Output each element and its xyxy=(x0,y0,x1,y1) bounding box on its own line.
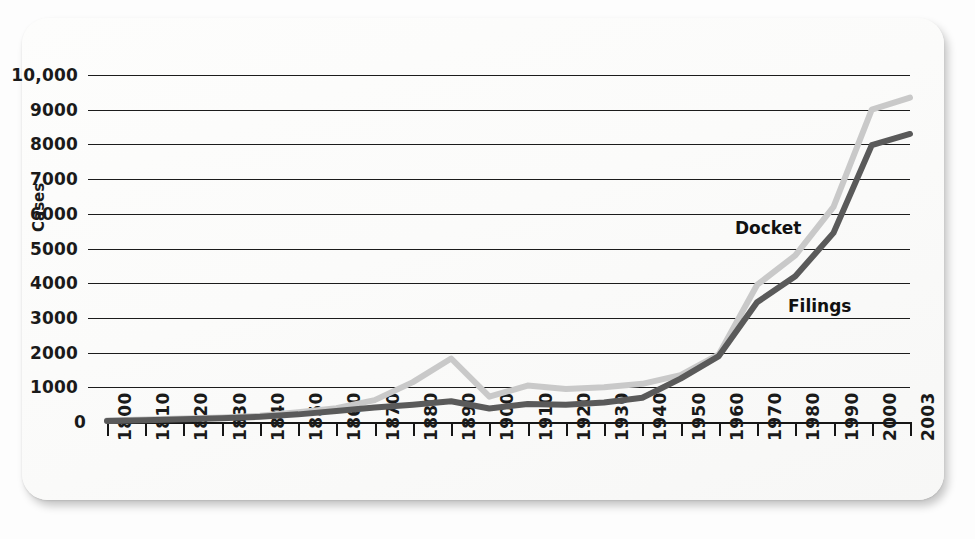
series-label-docket: Docket xyxy=(735,218,801,238)
chart-screenshot: Cases 0100020003000400050006000700080009… xyxy=(0,0,975,539)
series-layer xyxy=(0,0,975,539)
series-line-filings xyxy=(107,134,910,421)
series-label-filings: Filings xyxy=(788,296,851,316)
series-line-docket xyxy=(107,98,910,421)
